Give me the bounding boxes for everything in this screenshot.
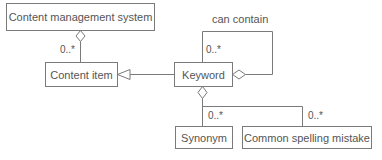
class-synonym: Synonym — [175, 126, 233, 149]
cms-multiplicity-label: 0..* — [60, 44, 75, 55]
class-common-spelling-mistake: Common spelling mistake — [242, 126, 372, 149]
self-association-name-label: can contain — [212, 13, 268, 25]
synonym-multiplicity-label: 0..* — [208, 110, 223, 121]
self-association-multiplicity-label: 0..* — [206, 44, 221, 55]
self-aggregation-diamond-icon — [233, 70, 246, 79]
keyword-aggregation-diamond-icon — [198, 87, 207, 99]
aggregation-diamond-icon — [76, 31, 85, 42]
generalization-triangle-icon — [118, 70, 131, 80]
class-content-management-system: Content management system — [6, 3, 155, 31]
spelling-multiplicity-label: 0..* — [308, 110, 323, 121]
class-content-item: Content item — [45, 62, 118, 87]
class-keyword: Keyword — [174, 62, 233, 87]
